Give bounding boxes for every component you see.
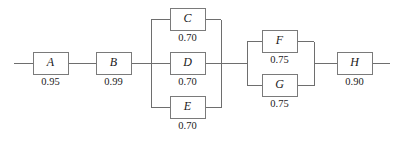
block-layer: A 0.95 B 0.99 C 0.70 D 0.70 E 0. xyxy=(34,9,373,132)
block-d[interactable]: D 0.70 xyxy=(171,53,206,88)
block-a[interactable]: A 0.95 xyxy=(34,53,69,88)
block-e-value: 0.70 xyxy=(178,120,196,131)
block-c-label: C xyxy=(183,11,192,25)
block-a-value: 0.95 xyxy=(41,76,59,87)
block-h-value: 0.90 xyxy=(345,76,363,87)
block-g-label: G xyxy=(275,77,284,91)
block-f-value: 0.75 xyxy=(270,54,288,65)
block-b-value: 0.99 xyxy=(104,76,122,87)
block-e[interactable]: E 0.70 xyxy=(171,97,206,132)
block-g[interactable]: G 0.75 xyxy=(263,75,298,110)
block-f[interactable]: F 0.75 xyxy=(263,31,298,66)
block-c[interactable]: C 0.70 xyxy=(171,9,206,44)
block-e-label: E xyxy=(183,99,192,113)
diagram-canvas: A 0.95 B 0.99 C 0.70 D 0.70 E 0. xyxy=(0,0,404,144)
block-a-label: A xyxy=(46,55,55,69)
block-g-value: 0.75 xyxy=(270,98,288,109)
block-b[interactable]: B 0.99 xyxy=(97,53,132,88)
block-b-label: B xyxy=(110,55,118,69)
block-f-label: F xyxy=(275,33,284,47)
block-h-label: H xyxy=(349,55,360,69)
block-d-label: D xyxy=(182,55,192,69)
reliability-block-diagram: A 0.95 B 0.99 C 0.70 D 0.70 E 0. xyxy=(0,0,404,144)
block-d-value: 0.70 xyxy=(178,76,196,87)
block-c-value: 0.70 xyxy=(178,32,196,43)
block-h[interactable]: H 0.90 xyxy=(338,53,373,88)
